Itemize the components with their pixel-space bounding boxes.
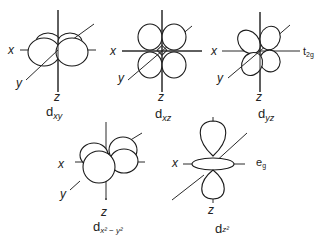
- orbital-label: dxy: [46, 104, 63, 121]
- lobe: [138, 24, 162, 50]
- z-axis-label: z: [157, 90, 164, 104]
- orbital-label: dx² − y²: [93, 219, 123, 235]
- orbital-label: dyz: [258, 106, 275, 123]
- y-axis: [172, 175, 204, 200]
- x-axis-label: x: [210, 44, 218, 58]
- t2g-group-label: t2g: [303, 45, 314, 59]
- y-axis: [70, 181, 80, 190]
- lobe: [256, 23, 283, 52]
- x-axis-label: x: [171, 156, 179, 170]
- x-axis-label: x: [109, 44, 117, 58]
- lobe: [83, 151, 115, 183]
- orbital-dx2-y2: x y z dx² − y²: [57, 122, 145, 235]
- y-axis-label: y: [117, 71, 125, 85]
- eg-group-label: eg: [256, 156, 266, 170]
- z-axis-label: z: [255, 90, 262, 104]
- x-axis-label: x: [57, 157, 65, 171]
- lobe: [138, 52, 162, 78]
- orbital-dxz: x y z dxz: [109, 10, 202, 123]
- x-axis-label: x: [7, 43, 15, 57]
- y-axis-label: y: [216, 71, 224, 85]
- z-axis-label: z: [207, 203, 214, 217]
- lobe: [56, 38, 88, 66]
- orbital-label: dz²: [215, 221, 229, 236]
- y-axis-label: y: [59, 187, 67, 201]
- torus: [192, 158, 234, 170]
- lobe: [162, 24, 186, 50]
- upper-lobe: [200, 121, 226, 156]
- d-orbitals-diagram: x y z dxy x y z dxz x y z dyz: [0, 0, 326, 246]
- orbital-label: dxz: [155, 106, 172, 123]
- orbital-dxy: x y z dxy: [7, 10, 96, 121]
- lower-lobe: [202, 170, 225, 199]
- z-axis-label: z: [100, 205, 107, 219]
- y-axis-label: y: [15, 76, 23, 90]
- z-axis-label: z: [53, 90, 60, 104]
- orbital-dz2: x z dz²: [171, 117, 247, 236]
- lobe: [162, 52, 186, 78]
- orbital-dyz: x y z dyz: [210, 12, 300, 123]
